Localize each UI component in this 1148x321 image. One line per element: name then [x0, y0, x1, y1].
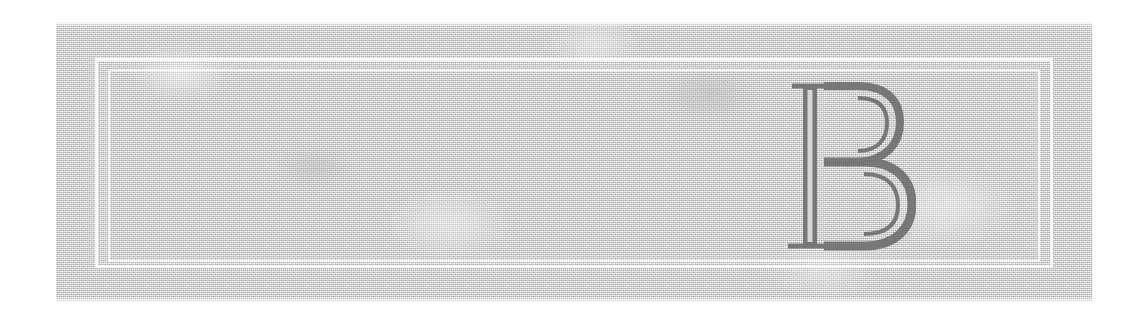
panel-texture-mottle: [56, 22, 1092, 302]
page-canvas: [0, 0, 1148, 321]
panel-top-edge-feather: [56, 22, 1092, 27]
textured-paper-panel: [56, 22, 1092, 302]
panel-bottom-edge-feather: [56, 297, 1092, 302]
